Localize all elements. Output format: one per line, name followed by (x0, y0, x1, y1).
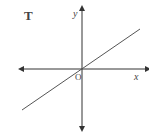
origin-label: O (75, 72, 82, 82)
graph: T y x O (0, 0, 149, 134)
figure-label: T (24, 8, 33, 23)
y-axis-label: y (72, 8, 78, 19)
x-axis-label: x (133, 71, 139, 82)
